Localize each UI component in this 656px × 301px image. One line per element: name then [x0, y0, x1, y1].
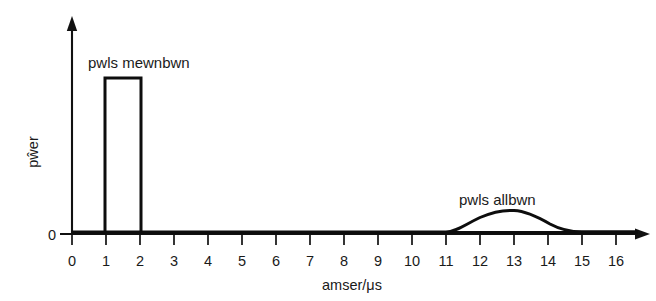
x-tick-label-8: 8: [340, 253, 348, 269]
input-pulse-trace: [72, 78, 638, 233]
axes-group: [60, 16, 650, 239]
x-tick-label-2: 2: [136, 253, 144, 269]
x-tick-label-13: 13: [506, 253, 522, 269]
x-tick-label-7: 7: [306, 253, 314, 269]
x-tick-label-0: 0: [68, 253, 76, 269]
x-tick-label-12: 12: [472, 253, 488, 269]
x-tick-labels: 0 1 2 3 4 5 6 7 8 9 10 11 12 13 14 15 16: [68, 253, 624, 269]
input-pulse-label: pwls mewnbwn: [88, 54, 190, 71]
chart-svg: 0 1 2 3 4 5 6 7 8 9 10 11 12 13 14 15 16…: [0, 0, 656, 301]
output-pulse-trace: [72, 210, 638, 232]
pulse-dispersion-chart: 0 1 2 3 4 5 6 7 8 9 10 11 12 13 14 15 16…: [0, 0, 656, 301]
x-tick-label-14: 14: [540, 253, 556, 269]
x-tick-marks: [72, 234, 616, 245]
x-tick-label-15: 15: [574, 253, 590, 269]
x-tick-label-11: 11: [438, 253, 453, 269]
x-tick-label-3: 3: [170, 253, 178, 269]
x-tick-label-10: 10: [404, 253, 420, 269]
x-tick-label-6: 6: [272, 253, 280, 269]
x-tick-label-9: 9: [374, 253, 382, 269]
output-pulse-label: pwls allbwn: [459, 191, 536, 208]
x-tick-label-1: 1: [102, 253, 110, 269]
x-tick-label-4: 4: [204, 253, 212, 269]
x-tick-label-16: 16: [608, 253, 624, 269]
y-axis-arrow-icon: [67, 16, 77, 31]
x-axis-title: amser/μs: [322, 277, 382, 293]
y-tick-label-0: 0: [48, 227, 56, 243]
y-axis-title: pŵer: [25, 136, 41, 168]
x-tick-label-5: 5: [238, 253, 246, 269]
